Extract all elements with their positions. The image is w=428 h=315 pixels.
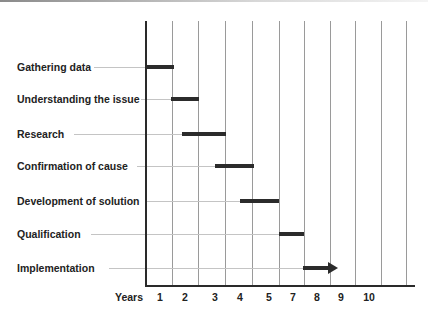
x-tick-label: 4 (237, 291, 243, 303)
gridline (279, 21, 280, 286)
x-axis (145, 285, 415, 287)
x-tick-label: 9 (338, 291, 344, 303)
gridline (355, 21, 356, 286)
arrow-right-icon (328, 262, 338, 274)
leader-line (91, 234, 279, 235)
gridline (225, 21, 226, 286)
leader-line (137, 166, 215, 167)
task-label-qualification: Qualification (17, 228, 81, 240)
task-bar-implementation (303, 266, 329, 270)
gridline (304, 21, 305, 286)
x-axis-label: Years (115, 291, 143, 303)
gridline (252, 21, 253, 286)
leader-line (74, 134, 182, 135)
task-label-development-of-solution: Development of solution (17, 195, 140, 207)
task-label-understanding-issue: Understanding the issue (17, 93, 140, 105)
leader-line (146, 201, 240, 202)
gridline (330, 21, 331, 286)
gridline (172, 21, 173, 286)
leader-line (109, 268, 303, 269)
gridline (381, 21, 382, 286)
task-bar-development-of-solution (240, 199, 279, 203)
gridline (198, 21, 199, 286)
task-bar-research (182, 132, 226, 136)
x-tick-label: 3 (212, 291, 218, 303)
task-label-gathering-data: Gathering data (17, 61, 91, 73)
task-label-implementation: Implementation (17, 262, 95, 274)
x-tick-label: 7 (290, 291, 296, 303)
task-bar-confirmation-of-cause (215, 164, 254, 168)
y-axis (145, 21, 147, 287)
task-label-research: Research (17, 128, 64, 140)
task-bar-qualification (279, 232, 304, 236)
task-label-confirmation-of-cause: Confirmation of cause (17, 160, 128, 172)
x-tick-label: 5 (266, 291, 272, 303)
gridline (406, 21, 407, 286)
x-tick-label: 8 (314, 291, 320, 303)
x-tick-label: 1 (157, 291, 163, 303)
x-tick-label: 2 (182, 291, 188, 303)
x-tick-label: 10 (363, 291, 375, 303)
task-bar-understanding-issue (171, 97, 199, 101)
leader-line (94, 67, 146, 68)
task-bar-gathering-data (146, 65, 174, 69)
scan-edge-line (0, 0, 428, 2)
